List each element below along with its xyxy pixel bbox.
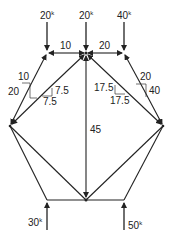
slope-triangle-inner-right (115, 85, 125, 94)
label-right-diag-h: 20 (140, 71, 152, 82)
label-right-diag-v: 40 (149, 85, 161, 96)
label-left-diag-h: 10 (18, 71, 30, 82)
label-top-right: 20 (99, 40, 111, 51)
label-top-left: 10 (60, 40, 72, 51)
member-left-inner (12, 55, 84, 124)
slope-triangle-inner-left (42, 88, 52, 96)
label-left-diag-v: 20 (8, 86, 20, 97)
reaction-label-left: 30k (28, 217, 43, 228)
load-label-right: 40k (117, 10, 132, 21)
load-label-left: 20k (40, 10, 55, 21)
label-inner-right-v: 17.5 (94, 82, 114, 93)
truss-diagram: 20k 20k 40k 10 20 10 20 7.5 7.5 45 17.5 … (0, 0, 175, 243)
label-inner-left-v: 7.5 (55, 85, 69, 96)
reaction-label-right: 50k (128, 220, 143, 231)
label-center-vertical: 45 (90, 124, 102, 135)
label-inner-left-h: 7.5 (43, 96, 57, 107)
label-inner-right-h: 17.5 (110, 95, 130, 106)
load-label-center: 20k (79, 10, 94, 21)
